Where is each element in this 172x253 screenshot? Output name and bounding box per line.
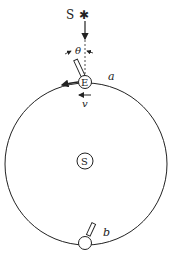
theta-arrow-right (87, 51, 93, 53)
telescope-bottom (86, 223, 95, 236)
position-a-label: a (108, 70, 115, 83)
earth-top-label: E (81, 77, 88, 88)
star-icon: ✱ (79, 8, 89, 22)
position-b-label: b (103, 226, 110, 239)
telescope-top (74, 59, 85, 77)
theta-arrow-left (65, 51, 71, 54)
earth-bottom (79, 237, 92, 250)
star-label: S (66, 8, 74, 22)
angle-theta-label: θ (75, 45, 81, 56)
aberration-diagram: S ✱ θ E a v S b (0, 0, 172, 253)
velocity-label: v (82, 98, 88, 109)
sun-label: S (81, 156, 88, 167)
